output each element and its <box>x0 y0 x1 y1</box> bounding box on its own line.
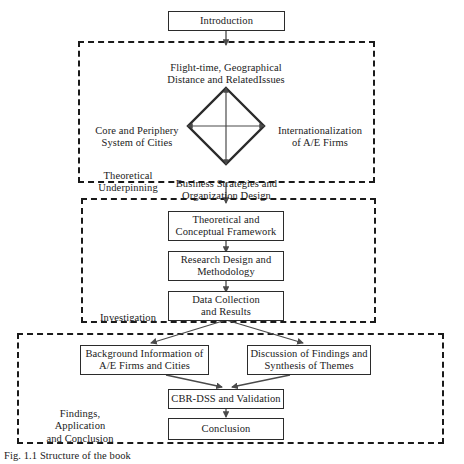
node-theoretical-framework-line1: Theoretical and <box>176 214 277 226</box>
group-label-theoretical-line2: Underpinning <box>98 182 158 193</box>
node-discussion-findings-line2: Synthesis of Themes <box>250 360 367 372</box>
diamond-label-left: Core and Periphery System of Cities <box>87 113 187 150</box>
connector-data-collection-to-discussion <box>226 320 303 343</box>
node-research-design-line2: Methodology <box>181 266 272 278</box>
diamond-label-top-line1: Flight-time, Geographical <box>170 62 282 73</box>
node-data-collection-line2: and Results <box>192 306 260 318</box>
diamond-label-top: Flight-time, Geographical Distance and R… <box>136 50 316 87</box>
group-label-investigation: Investigation <box>92 300 164 324</box>
node-cbr-dss-label: CBR-DSS and Validation <box>171 393 280 405</box>
node-introduction[interactable]: Introduction <box>168 11 285 31</box>
group-label-findings-application-conclusion: Findings, Application and Conclusion <box>28 396 132 445</box>
group-label-findings-line1: Findings, <box>60 408 100 419</box>
group-label-investigation-text: Investigation <box>100 312 156 323</box>
node-theoretical-conceptual-framework[interactable]: Theoretical and Conceptual Framework <box>168 211 284 241</box>
connector-discussion-to-cbr-dss <box>232 375 290 387</box>
diamond-label-left-line2: System of Cities <box>101 137 172 148</box>
node-theoretical-framework-line2: Conceptual Framework <box>176 226 277 238</box>
figure-caption: Fig. 1.1 Structure of the book <box>4 450 131 461</box>
diamond-label-right-line2: of A/E Firms <box>292 137 348 148</box>
node-introduction-label: Introduction <box>200 15 253 27</box>
group-label-theoretical-underpinning: Theoretical Underpinning <box>84 158 172 195</box>
diamond-label-right: Internationalization of A/E Firms <box>268 113 372 150</box>
node-background-information[interactable]: Background Information of A/E Firms and … <box>80 345 209 375</box>
diamond-label-bottom-line2: Organization Design <box>182 190 271 201</box>
node-research-design-methodology[interactable]: Research Design and Methodology <box>168 251 284 281</box>
diamond-label-top-line2: Distance and RelatedIssues <box>167 74 284 85</box>
node-data-collection-line1: Data Collection <box>192 294 260 306</box>
connector-background-to-cbr-dss <box>166 375 222 387</box>
node-research-design-line1: Research Design and <box>181 254 272 266</box>
node-discussion-findings-line1: Discussion of Findings and <box>250 348 367 360</box>
node-conclusion[interactable]: Conclusion <box>168 418 284 440</box>
node-background-info-line2: A/E Firms and Cities <box>86 360 204 372</box>
node-data-collection-results[interactable]: Data Collection and Results <box>168 291 284 321</box>
figure-canvas: Introduction Theoretical and Conceptual … <box>0 0 464 464</box>
node-conclusion-label: Conclusion <box>202 423 251 435</box>
group-label-findings-line2: Application <box>55 420 106 431</box>
node-background-info-line1: Background Information of <box>86 348 204 360</box>
group-label-findings-line3: and Conclusion <box>46 433 113 444</box>
diamond-label-left-line1: Core and Periphery <box>95 125 178 136</box>
diamond-label-bottom-line1: Business Strategies and <box>176 178 277 189</box>
node-cbr-dss-validation[interactable]: CBR-DSS and Validation <box>168 389 284 409</box>
diamond-label-right-line1: Internationalization <box>278 125 362 136</box>
node-discussion-of-findings[interactable]: Discussion of Findings and Synthesis of … <box>247 345 371 375</box>
group-label-theoretical-line1: Theoretical <box>104 170 153 181</box>
